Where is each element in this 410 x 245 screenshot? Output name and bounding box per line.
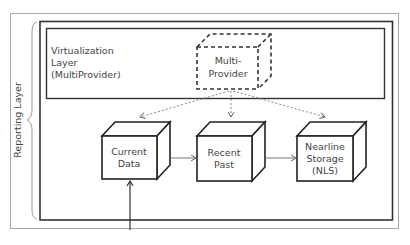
- virtualization-label-line3: (MultiProvider): [51, 69, 121, 80]
- multiprovider-arrows: [140, 91, 325, 117]
- nls-label-line1: Nearline: [305, 141, 345, 152]
- current-data-label-line1: Current: [111, 146, 147, 157]
- reporting-layer-label: Reporting Layer: [12, 82, 23, 158]
- reporting-layer-brace: [27, 22, 37, 219]
- virtualization-label-line2: Layer: [51, 57, 78, 68]
- virtualization-label-line1: Virtualization: [51, 45, 114, 56]
- multiprovider-label-line2: Provider: [208, 68, 247, 79]
- recent-past-label-line1: Recent: [208, 147, 241, 158]
- multiprovider-label-line1: Multi-: [215, 55, 242, 66]
- current-data-label-line2: Data: [118, 158, 141, 169]
- reporting-layer-diagram: Reporting Layer Virtualization Layer (Mu…: [0, 0, 410, 245]
- recent-past-label-line2: Past: [214, 159, 234, 170]
- nls-label-line2: Storage: [306, 153, 343, 164]
- nls-label-line3: (NLS): [312, 165, 338, 176]
